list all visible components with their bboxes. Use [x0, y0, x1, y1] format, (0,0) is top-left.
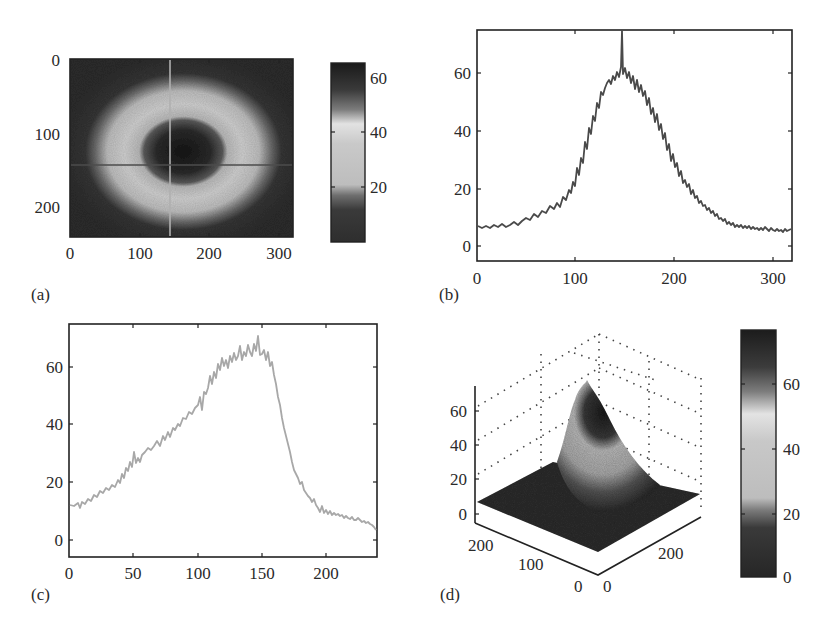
d-xtick-100: 100	[518, 556, 544, 573]
panel-d-label: (d)	[440, 585, 460, 605]
d-ytick-200: 200	[658, 545, 684, 562]
d-ztick-40: 40	[427, 437, 467, 454]
d-ztick-0: 0	[427, 506, 467, 523]
d-cbar-tick-40: 40	[783, 441, 800, 458]
d-ztick-60: 60	[427, 403, 467, 420]
d-ytick-0: 0	[603, 578, 612, 595]
d-ztick-20: 20	[427, 471, 467, 488]
d-cbar-tick-20: 20	[783, 506, 800, 523]
d-cbar-tick-0: 0	[783, 569, 792, 586]
d-xtick-0: 0	[574, 578, 583, 595]
d-cbar-tick-60: 60	[783, 376, 800, 393]
d-xtick-200: 200	[468, 537, 494, 554]
colorbar-d	[0, 0, 829, 636]
